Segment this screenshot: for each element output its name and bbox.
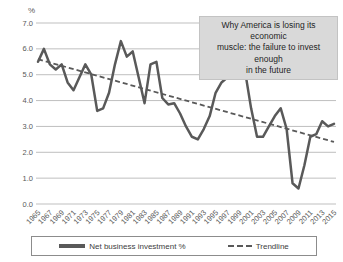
solid-line-swatch (59, 244, 85, 248)
y-tick-label: 6.0 (23, 44, 33, 53)
chart-legend: Net business investment % Trendline (31, 236, 317, 256)
y-tick-label: 1.0 (23, 174, 33, 183)
chart-canvas: 0.01.02.03.04.05.06.07.0%196519671969197… (0, 0, 343, 262)
y-axis-unit-label: % (28, 6, 35, 15)
y-tick-label: 5.0 (23, 70, 33, 79)
y-tick-label: 0.0 (23, 200, 33, 209)
legend-item-net-business-investment: Net business investment % (59, 242, 186, 251)
legend-label-trendline: Trendline (256, 242, 289, 251)
annotation-line-2: muscle: the failure to invest enough (204, 42, 333, 64)
y-tick-label: 3.0 (23, 122, 33, 131)
x-tick-label: 2015 (320, 208, 338, 226)
y-tick-label: 2.0 (23, 148, 33, 157)
annotation-box: Why America is losing its economic muscl… (199, 16, 338, 80)
y-tick-label: 4.0 (23, 96, 33, 105)
annotation-line-1: Why America is losing its economic (204, 20, 333, 42)
legend-item-trendline: Trendline (228, 242, 289, 251)
annotation-line-3: in the future (204, 65, 333, 76)
y-tick-label: 7.0 (23, 19, 33, 28)
legend-label-series: Net business investment % (89, 242, 186, 251)
dashed-line-swatch (228, 245, 252, 247)
